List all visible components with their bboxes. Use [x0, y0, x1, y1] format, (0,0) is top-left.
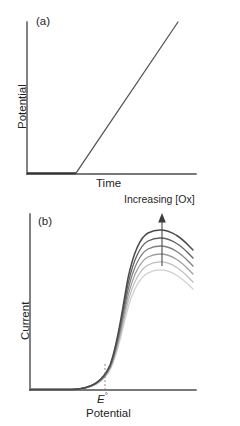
panel-b-e-standard-label: E°	[97, 392, 108, 405]
panel-a: (a) Time Potential	[0, 0, 240, 200]
panel-b-y-axis-label: Current	[20, 302, 32, 340]
panel-b-tag: (b)	[38, 216, 52, 228]
panel-b-increasing-ox-label: Increasing [Ox]	[124, 194, 195, 205]
panel-b-curve-1	[30, 270, 193, 389]
panel-b-curve-2	[30, 262, 193, 389]
panel-a-y-axis-label: Potential	[17, 84, 29, 129]
panel-a-tag: (a)	[36, 16, 50, 28]
e-standard-symbol: E	[97, 393, 105, 405]
panel-b: (b) Increasing [Ox] E° Potential Current	[0, 190, 240, 426]
panel-b-x-axis-label: Potential	[86, 408, 131, 420]
panel-b-curve-3	[30, 254, 193, 389]
panel-b-plot	[0, 190, 240, 426]
panel-a-plot	[0, 0, 240, 200]
e-standard-superscript: °	[105, 391, 108, 400]
figure-container: (a) Time Potential (b) Increasing [Ox]	[0, 0, 240, 426]
panel-a-x-axis-label: Time	[96, 178, 121, 190]
panel-a-ramp-line	[76, 22, 178, 173]
panel-b-increasing-arrow-head	[158, 213, 166, 223]
